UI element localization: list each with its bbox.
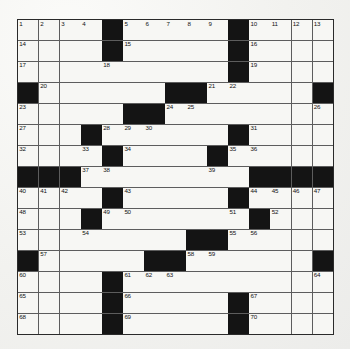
letter-cell[interactable]: 70 [249,314,269,334]
letter-cell[interactable] [186,293,206,313]
letter-cell[interactable] [60,146,80,166]
letter-cell[interactable]: 42 [60,188,80,208]
letter-cell[interactable]: 20 [39,83,59,103]
letter-cell[interactable] [102,83,122,103]
letter-cell[interactable]: 21 [207,83,227,103]
letter-cell[interactable]: 16 [249,41,269,61]
letter-cell[interactable] [39,146,59,166]
letter-cell[interactable] [207,125,227,145]
letter-cell[interactable] [207,41,227,61]
letter-cell[interactable]: 65 [18,293,38,313]
letter-cell[interactable] [313,146,333,166]
letter-cell[interactable]: 60 [18,272,38,292]
letter-cell[interactable] [292,104,312,124]
letter-cell[interactable] [270,272,290,292]
letter-cell[interactable]: 19 [249,62,269,82]
letter-cell[interactable] [292,41,312,61]
letter-cell[interactable] [313,230,333,250]
letter-cell[interactable] [292,272,312,292]
letter-cell[interactable]: 30 [144,125,164,145]
letter-cell[interactable]: 53 [18,230,38,250]
letter-cell[interactable] [207,272,227,292]
letter-cell[interactable] [165,41,185,61]
letter-cell[interactable]: 32 [18,146,38,166]
letter-cell[interactable] [313,41,333,61]
letter-cell[interactable]: 47 [313,188,333,208]
letter-cell[interactable] [60,314,80,334]
letter-cell[interactable] [165,62,185,82]
letter-cell[interactable] [207,314,227,334]
letter-cell[interactable] [313,293,333,313]
letter-cell[interactable]: 11 [270,20,290,40]
letter-cell[interactable]: 52 [270,209,290,229]
letter-cell[interactable]: 57 [39,251,59,271]
letter-cell[interactable]: 5 [123,20,143,40]
letter-cell[interactable] [144,41,164,61]
letter-cell[interactable]: 54 [81,230,101,250]
letter-cell[interactable] [81,83,101,103]
letter-cell[interactable] [313,314,333,334]
letter-cell[interactable]: 10 [249,20,269,40]
letter-cell[interactable] [313,125,333,145]
letter-cell[interactable]: 56 [249,230,269,250]
letter-cell[interactable] [186,125,206,145]
letter-cell[interactable] [186,41,206,61]
letter-cell[interactable]: 49 [102,209,122,229]
letter-cell[interactable] [144,230,164,250]
letter-cell[interactable] [228,272,248,292]
letter-cell[interactable] [270,230,290,250]
letter-cell[interactable] [165,314,185,334]
letter-cell[interactable]: 29 [123,125,143,145]
letter-cell[interactable]: 12 [292,20,312,40]
letter-cell[interactable] [165,125,185,145]
letter-cell[interactable] [39,293,59,313]
letter-cell[interactable] [39,104,59,124]
letter-cell[interactable] [249,104,269,124]
letter-cell[interactable] [123,230,143,250]
letter-cell[interactable] [60,230,80,250]
letter-cell[interactable] [270,104,290,124]
letter-cell[interactable] [292,230,312,250]
letter-cell[interactable] [102,251,122,271]
letter-cell[interactable] [81,62,101,82]
letter-cell[interactable] [313,62,333,82]
letter-cell[interactable] [102,104,122,124]
letter-cell[interactable]: 8 [186,20,206,40]
letter-cell[interactable] [165,167,185,187]
letter-cell[interactable]: 67 [249,293,269,313]
letter-cell[interactable] [270,125,290,145]
letter-cell[interactable] [144,83,164,103]
letter-cell[interactable] [81,41,101,61]
letter-cell[interactable] [270,146,290,166]
letter-cell[interactable] [39,230,59,250]
letter-cell[interactable] [60,209,80,229]
letter-cell[interactable] [39,209,59,229]
letter-cell[interactable] [165,293,185,313]
letter-cell[interactable] [186,62,206,82]
letter-cell[interactable]: 38 [102,167,122,187]
letter-cell[interactable] [249,251,269,271]
letter-cell[interactable] [39,62,59,82]
letter-cell[interactable] [144,146,164,166]
letter-cell[interactable] [60,125,80,145]
letter-cell[interactable] [270,62,290,82]
letter-cell[interactable] [144,167,164,187]
letter-cell[interactable] [144,314,164,334]
letter-cell[interactable] [123,251,143,271]
letter-cell[interactable]: 7 [165,20,185,40]
letter-cell[interactable] [292,293,312,313]
letter-cell[interactable] [313,209,333,229]
letter-cell[interactable] [81,314,101,334]
letter-cell[interactable] [144,62,164,82]
letter-cell[interactable]: 4 [81,20,101,40]
letter-cell[interactable] [207,293,227,313]
letter-cell[interactable]: 31 [249,125,269,145]
letter-cell[interactable] [292,251,312,271]
letter-cell[interactable] [81,104,101,124]
letter-cell[interactable]: 13 [313,20,333,40]
letter-cell[interactable] [39,272,59,292]
letter-cell[interactable] [144,293,164,313]
letter-cell[interactable] [60,272,80,292]
letter-cell[interactable] [81,188,101,208]
letter-cell[interactable]: 44 [249,188,269,208]
